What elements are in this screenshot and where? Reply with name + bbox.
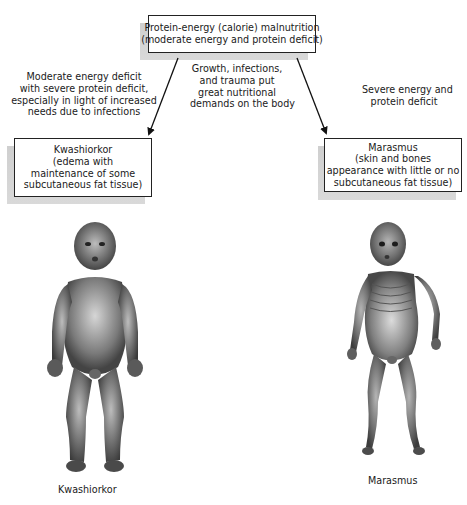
- arrows-layer: [0, 0, 467, 505]
- arrow-to-kwashiorkor: [149, 58, 178, 134]
- arrow-to-marasmus: [297, 58, 326, 133]
